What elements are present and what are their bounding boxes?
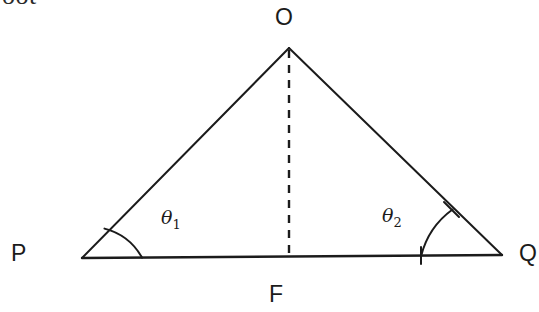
cropped-text-fragment: oot [2, 0, 37, 9]
side-pq-base [82, 255, 502, 258]
vertex-label-q: Q [519, 242, 537, 265]
angle-arc-theta2 [421, 210, 453, 257]
side-po [82, 48, 289, 258]
vertex-label-o: O [275, 6, 293, 29]
angle-label-theta2: θ2 [382, 206, 402, 225]
vertex-label-f: F [269, 283, 283, 306]
angle-label-theta2-subscript: 2 [393, 215, 401, 230]
triangle-diagram-canvas [0, 0, 539, 312]
angle-label-theta1-subscript: 1 [172, 217, 180, 232]
angle-label-theta2-symbol: θ [382, 204, 393, 226]
angle-label-theta1: θ1 [161, 208, 181, 227]
angle-label-theta1-symbol: θ [161, 206, 172, 228]
vertex-label-p: P [11, 242, 26, 265]
angle-arc-theta1 [105, 229, 143, 258]
geometry-figure: oot O P Q F θ1 θ2 [0, 0, 539, 312]
